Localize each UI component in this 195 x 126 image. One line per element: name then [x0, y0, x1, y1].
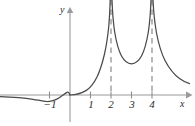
x-axis-label: x — [180, 99, 184, 109]
x-tick-label-3: 3 — [129, 99, 135, 110]
x-axis-arrow-icon — [186, 92, 193, 99]
curve-branch-left — [0, 92, 70, 101]
x-tick-label-neg1: −1 — [44, 99, 57, 110]
curve-branch-right — [153, 0, 190, 84]
curve-branch-middle-right — [112, 0, 151, 64]
x-tick-label-4: 4 — [149, 99, 155, 110]
curve-group — [0, 0, 190, 102]
y-axis-arrow-icon — [67, 7, 74, 13]
axes-group — [0, 7, 193, 122]
plot-canvas — [0, 0, 195, 126]
asymptote-group — [111, 0, 152, 95]
curve-branch-middle-left — [70, 0, 110, 95]
x-tick-label-1: 1 — [88, 99, 94, 110]
x-tick-label-2: 2 — [108, 99, 114, 110]
function-graph-figure: −1 1 2 3 4 y x — [0, 0, 195, 126]
y-axis-label: y — [60, 5, 64, 15]
